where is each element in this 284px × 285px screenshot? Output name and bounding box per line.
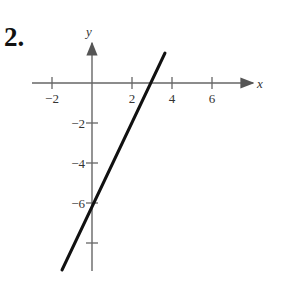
ticks: −2246−2−4−6: [45, 77, 216, 243]
x-tick-label: −2: [45, 91, 59, 106]
x-tick-label: 4: [169, 91, 176, 106]
line-graph: x y −2246−2−4−6: [0, 0, 284, 285]
axes: [32, 43, 253, 271]
x-axis-label: x: [256, 76, 263, 91]
y-tick-label: −6: [71, 196, 85, 211]
x-tick-label: 6: [209, 91, 216, 106]
y-tick-label: −2: [71, 116, 85, 131]
y-tick-label: −4: [71, 156, 85, 171]
x-tick-label: 2: [129, 91, 136, 106]
y-axis-label: y: [84, 24, 92, 39]
